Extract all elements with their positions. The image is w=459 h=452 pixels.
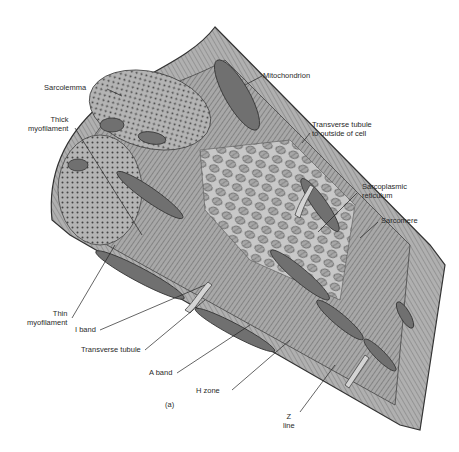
label-sarcolemma: Sarcolemma xyxy=(44,84,86,93)
label-thin-myofilament: Thin myofilament xyxy=(27,310,67,327)
label-a-band: A band xyxy=(149,369,172,378)
label-mitochondrion: Mitochondrion xyxy=(263,72,310,81)
label-sarcoplasmic-reticulum: Sarcoplasmic reticulum xyxy=(362,183,407,200)
figure-caption: (a) xyxy=(165,401,174,410)
label-thick-myofilament-line2: myofilament xyxy=(28,125,68,134)
label-transverse-tubule: Transverse tubule xyxy=(81,346,141,355)
label-thin-myofilament-line2: myofilament xyxy=(27,319,67,328)
label-h-zone: H zone xyxy=(196,387,220,396)
label-thick-myofilament: Thick myofilament xyxy=(28,116,68,133)
label-sarcoplasmic-reticulum-line2: reticulum xyxy=(362,192,407,201)
label-i-band: I band xyxy=(75,326,96,335)
label-z-line-line2: line xyxy=(283,422,295,431)
label-sarcomere: Sarcomere xyxy=(381,217,418,226)
label-transverse-tubule-outside: Transverse tubule to outside of cell xyxy=(312,121,372,138)
muscle-fiber-illustration xyxy=(0,0,459,452)
label-transverse-tubule-outside-line2: to outside of cell xyxy=(312,130,372,139)
myofibril-cross-section-left xyxy=(58,135,142,245)
label-z-line: Z line xyxy=(283,413,295,430)
